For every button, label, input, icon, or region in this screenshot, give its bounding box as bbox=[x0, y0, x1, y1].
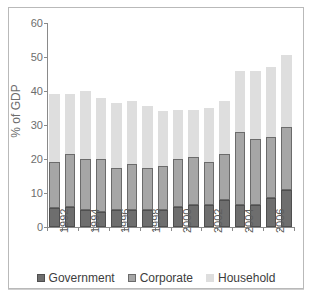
bar-segment-corporate bbox=[127, 164, 138, 210]
bar-segment-corporate bbox=[281, 127, 292, 190]
x-axis-tick-mark bbox=[232, 228, 233, 231]
y-axis-title: % of GDP bbox=[9, 51, 23, 171]
bar-segment-corporate bbox=[266, 137, 277, 198]
legend-label: Household bbox=[218, 272, 275, 284]
legend-swatch-icon bbox=[37, 274, 45, 282]
x-axis-tick-label: 2004 bbox=[244, 209, 255, 233]
x-axis-tick-mark bbox=[263, 228, 264, 231]
bar-segment-household bbox=[96, 98, 107, 159]
bar-segment-household bbox=[281, 55, 292, 126]
x-axis-tick-mark bbox=[109, 228, 110, 231]
bar-segment-household bbox=[173, 110, 184, 159]
bar-segment-corporate bbox=[65, 154, 76, 207]
bar-series-container bbox=[47, 23, 294, 227]
x-axis-tick-mark bbox=[140, 228, 141, 231]
bar-segment-household bbox=[111, 103, 122, 168]
bar-segment-corporate bbox=[173, 159, 184, 207]
y-axis-tick-label: 60 bbox=[3, 18, 43, 29]
bar-segment-household bbox=[127, 101, 138, 164]
bar-segment-corporate bbox=[49, 162, 60, 208]
x-axis-tick-label: 1994 bbox=[90, 209, 101, 233]
x-axis-tick-label: 1992 bbox=[59, 209, 70, 233]
bar-segment-household bbox=[204, 108, 215, 162]
bar-segment-corporate bbox=[96, 159, 107, 212]
bar-segment-corporate bbox=[142, 168, 153, 211]
legend-label: Corporate bbox=[140, 272, 193, 284]
bar-segment-household bbox=[80, 91, 91, 159]
bar-segment-corporate bbox=[235, 132, 246, 205]
y-axis-tick-label: 0 bbox=[3, 222, 43, 233]
y-axis-tick-label: 10 bbox=[3, 188, 43, 199]
bar-segment-household bbox=[158, 111, 169, 165]
bar-segment-household bbox=[250, 71, 261, 139]
bar-segment-household bbox=[65, 94, 76, 154]
x-axis-tick-label: 2000 bbox=[182, 209, 193, 233]
legend-swatch-icon bbox=[128, 274, 136, 282]
legend-item-corporate[interactable]: Corporate bbox=[128, 272, 193, 284]
bar-segment-household bbox=[188, 110, 199, 158]
legend-label: Government bbox=[49, 272, 115, 284]
chart-figure: 0102030405060 % of GDP 19921994199619982… bbox=[0, 0, 312, 296]
x-axis-tick-label: 2002 bbox=[213, 209, 224, 233]
plot-area bbox=[47, 23, 294, 227]
bar-segment-household bbox=[266, 67, 277, 137]
bar-segment-corporate bbox=[219, 154, 230, 200]
bar-segment-household bbox=[235, 71, 246, 132]
x-axis-tick-mark bbox=[47, 228, 48, 231]
legend-item-government[interactable]: Government bbox=[37, 272, 115, 284]
legend-item-household[interactable]: Household bbox=[206, 272, 275, 284]
bar-segment-corporate bbox=[250, 139, 261, 205]
bar-segment-household bbox=[219, 101, 230, 154]
legend-swatch-icon bbox=[206, 274, 214, 282]
bar-segment-corporate bbox=[204, 162, 215, 205]
bar-segment-corporate bbox=[188, 157, 199, 205]
bar-segment-corporate bbox=[80, 159, 91, 210]
x-axis-tick-labels: 19921994199619982000200220042006 bbox=[47, 228, 295, 266]
x-axis-tick-mark bbox=[171, 228, 172, 231]
chart-legend: GovernmentCorporateHousehold bbox=[14, 270, 298, 286]
x-axis-tick-mark bbox=[294, 228, 295, 231]
x-axis-tick-label: 2006 bbox=[275, 209, 286, 233]
x-axis-tick-mark bbox=[201, 228, 202, 231]
bar-segment-corporate bbox=[111, 168, 122, 211]
x-axis-tick-label: 1998 bbox=[151, 209, 162, 233]
bar-segment-corporate bbox=[158, 166, 169, 210]
bar-segment-household bbox=[49, 94, 60, 162]
x-axis-tick-label: 1996 bbox=[120, 209, 131, 233]
bar-segment-household bbox=[142, 106, 153, 167]
legend-divider bbox=[8, 289, 304, 290]
x-axis-tick-mark bbox=[78, 228, 79, 231]
